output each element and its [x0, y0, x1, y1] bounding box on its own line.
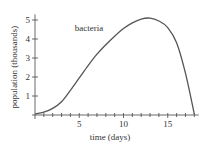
y-tick-label: 2	[26, 72, 31, 82]
y-axis-label: population (thousands)	[9, 26, 19, 109]
x-tick-label: 10	[119, 119, 129, 129]
bacteria-curve	[35, 18, 194, 114]
ticks: 5101512345	[26, 15, 195, 129]
x-tick-label: 5	[77, 119, 82, 129]
y-tick-label: 4	[26, 34, 31, 44]
x-axis-label: time (days)	[90, 132, 131, 142]
y-tick-label: 1	[26, 91, 31, 101]
y-tick-label: 5	[26, 15, 31, 25]
x-tick-label: 15	[163, 119, 173, 129]
y-tick-label: 3	[26, 53, 31, 63]
bacteria-label: bacteria	[75, 23, 103, 33]
axes	[32, 14, 199, 119]
bacteria-population-chart: 5101512345 bacteria time (days) populati…	[0, 0, 204, 155]
